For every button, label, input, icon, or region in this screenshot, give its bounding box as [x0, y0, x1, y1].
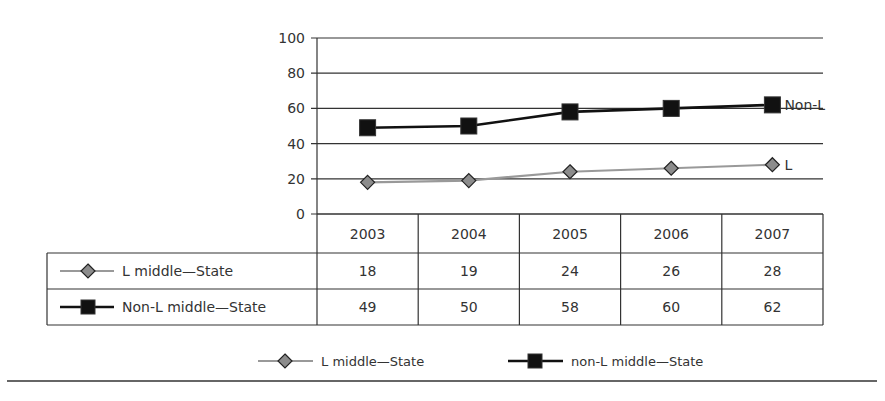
line-chart: 020406080100 LNon-L 20032004200520062007… [0, 0, 885, 401]
diamond-marker-icon [361, 175, 375, 189]
data-table: 20032004200520062007L middle—State181924… [47, 214, 823, 325]
table-header-cell: 2004 [451, 226, 487, 242]
table-cell: 58 [561, 299, 579, 315]
square-marker-icon [360, 120, 376, 136]
table-cell: 49 [359, 299, 377, 315]
table-cell: 50 [460, 299, 478, 315]
square-marker-icon [562, 104, 578, 120]
square-legend-icon [528, 354, 542, 368]
table-cell: 28 [763, 263, 781, 279]
square-key-icon [81, 300, 95, 314]
diamond-marker-icon [563, 165, 577, 179]
series-end-label: L [784, 157, 792, 173]
series-end-labels: LNon-L [784, 97, 825, 173]
series-end-label: Non-L [784, 97, 825, 113]
diamond-marker-icon [664, 161, 678, 175]
diamond-marker-icon [462, 174, 476, 188]
square-marker-icon [663, 100, 679, 116]
y-tick-label: 0 [296, 206, 305, 222]
diamond-legend-icon [278, 354, 292, 368]
legend-label: non-L middle—State [571, 354, 703, 369]
table-header-cell: 2006 [653, 226, 689, 242]
legend-label: L middle—State [321, 354, 424, 369]
table-row-label: Non-L middle—State [122, 299, 266, 315]
table-cell: 19 [460, 263, 478, 279]
y-tick-label: 40 [287, 136, 305, 152]
y-axis: 020406080100 [278, 30, 317, 222]
y-tick-label: 80 [287, 65, 305, 81]
diamond-key-icon [81, 264, 95, 278]
square-marker-icon [764, 97, 780, 113]
table-header-cell: 2003 [350, 226, 386, 242]
table-cell: 24 [561, 263, 579, 279]
diamond-marker-icon [765, 158, 779, 172]
legend: L middle—Statenon-L middle—State [258, 354, 703, 369]
table-cell: 18 [359, 263, 377, 279]
y-tick-label: 20 [287, 171, 305, 187]
table-row-label: L middle—State [122, 263, 233, 279]
grid-lines [311, 38, 823, 214]
table-header-cell: 2007 [755, 226, 791, 242]
table-header-cell: 2005 [552, 226, 588, 242]
table-cell: 60 [662, 299, 680, 315]
y-tick-label: 100 [278, 30, 305, 46]
square-marker-icon [461, 118, 477, 134]
table-cell: 62 [763, 299, 781, 315]
y-tick-label: 60 [287, 100, 305, 116]
table-cell: 26 [662, 263, 680, 279]
